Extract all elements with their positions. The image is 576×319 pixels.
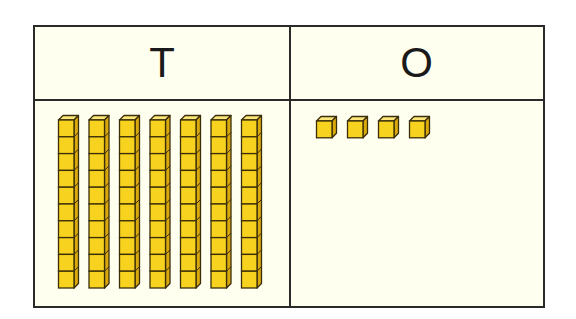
ten-rod bbox=[150, 116, 170, 289]
tens-cell bbox=[35, 101, 289, 306]
ones-column-header: O bbox=[291, 27, 542, 99]
unit-cube bbox=[348, 117, 368, 138]
ten-rod bbox=[59, 116, 79, 289]
place-value-table: T O bbox=[33, 25, 545, 308]
unit-cubes-group bbox=[291, 101, 542, 310]
ten-rod bbox=[120, 116, 140, 289]
unit-cube bbox=[410, 117, 430, 138]
ten-rod bbox=[211, 116, 231, 289]
ten-rod bbox=[242, 116, 262, 289]
ten-rod bbox=[181, 116, 201, 289]
unit-cube bbox=[317, 117, 337, 138]
ones-cell bbox=[291, 101, 543, 306]
ten-rod bbox=[89, 116, 109, 289]
tens-column-header: T bbox=[35, 27, 289, 99]
unit-cube bbox=[379, 117, 399, 138]
ten-rods-group bbox=[35, 101, 289, 310]
diagram-stage: T O bbox=[0, 0, 576, 319]
